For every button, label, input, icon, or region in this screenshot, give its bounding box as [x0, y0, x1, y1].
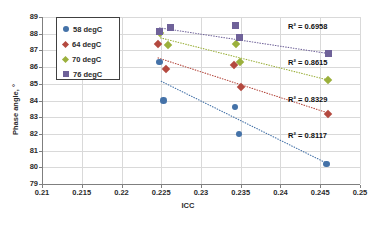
x-axis-tick — [42, 185, 43, 188]
data-point — [236, 34, 243, 41]
gridline-vertical — [360, 17, 361, 184]
x-tick-label: 0.23 — [184, 189, 218, 197]
gridline-vertical — [122, 17, 123, 184]
legend-item-76-degc[interactable]: 76 degC — [63, 68, 102, 80]
gridline-vertical — [241, 17, 242, 184]
data-point — [325, 50, 332, 57]
x-tick-label: 0.25 — [343, 189, 376, 197]
legend-item-64-degc[interactable]: 64 degC — [63, 38, 101, 50]
y-tick-label: 80 — [14, 163, 38, 171]
legend-marker-icon — [62, 40, 69, 47]
x-axis-tick — [82, 185, 83, 188]
x-tick-label: 0.24 — [264, 189, 298, 197]
legend-item-label: 76 degC — [73, 70, 102, 79]
y-tick-label: 87 — [14, 46, 38, 54]
y-axis-tick — [39, 34, 42, 35]
data-point — [323, 161, 330, 168]
y-axis-tick — [39, 151, 42, 152]
y-tick-label: 89 — [14, 13, 38, 21]
y-axis-tick — [39, 50, 42, 51]
y-axis-tick — [39, 167, 42, 168]
legend-item-label: 70 degC — [72, 55, 101, 64]
x-axis-tick — [201, 185, 202, 188]
y-axis-title: Phase angle, ° — [11, 84, 20, 135]
x-axis-tick — [320, 185, 321, 188]
legend-marker-icon — [62, 55, 69, 62]
legend-item-label: 64 degC — [72, 40, 101, 49]
legend-marker-icon — [63, 26, 69, 32]
y-axis-tick — [39, 17, 42, 18]
r-squared-label: R² = 0.8117 — [288, 131, 327, 140]
r-squared-label: R² = 0.6958 — [288, 22, 327, 31]
y-tick-label: 86 — [14, 63, 38, 71]
r-squared-label: R² = 0.8329 — [288, 95, 327, 104]
x-tick-label: 0.215 — [65, 189, 99, 197]
legend-item-58-degc[interactable]: 58 degC — [63, 23, 102, 35]
r-squared-label: R² = 0.8615 — [288, 58, 327, 67]
x-tick-label: 0.225 — [144, 189, 178, 197]
x-axis-title: ICC — [0, 201, 376, 210]
x-tick-label: 0.245 — [303, 189, 337, 197]
x-axis-tick — [241, 185, 242, 188]
y-axis-tick — [39, 84, 42, 85]
data-point — [167, 24, 174, 31]
gridline-vertical — [280, 17, 281, 184]
legend-item-label: 58 degC — [73, 25, 102, 34]
y-tick-label: 81 — [14, 147, 38, 155]
data-point — [156, 28, 163, 35]
y-axis-tick — [39, 67, 42, 68]
gridline-vertical — [201, 17, 202, 184]
legend: 58 degC64 degC70 degC76 degC — [56, 17, 120, 80]
x-axis-tick — [122, 185, 123, 188]
y-axis-tick — [39, 134, 42, 135]
x-axis-tick — [280, 185, 281, 188]
y-tick-label: 88 — [14, 30, 38, 38]
x-tick-label: 0.235 — [224, 189, 258, 197]
data-point — [232, 22, 239, 29]
y-axis-tick — [39, 117, 42, 118]
legend-marker-icon — [63, 71, 69, 77]
x-axis-tick — [360, 185, 361, 188]
y-axis-tick — [39, 101, 42, 102]
data-point — [160, 97, 167, 104]
y-tick-label: 79 — [14, 180, 38, 188]
y-axis-line — [42, 17, 43, 185]
x-tick-label: 0.21 — [25, 189, 59, 197]
legend-item-70-degc[interactable]: 70 degC — [63, 53, 101, 65]
x-axis-tick — [161, 185, 162, 188]
scatter-chart: 7980818283848586878889 0.210.2150.220.22… — [0, 0, 376, 228]
x-tick-label: 0.22 — [105, 189, 139, 197]
